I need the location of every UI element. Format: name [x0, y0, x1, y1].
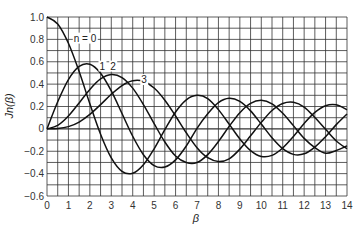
curve-annotations: n = 0123 [73, 33, 149, 85]
y-tick: 0.8 [30, 34, 44, 45]
curve-label: 3 [141, 74, 147, 85]
x-tick: 13 [320, 200, 332, 211]
x-tick-labels: 01234567891011121314 [44, 200, 353, 211]
y-tick-labels: 1.00.80.60.40.20−0.2−0.4−0.6 [24, 12, 44, 202]
x-tick: 3 [109, 200, 115, 211]
x-tick: 8 [216, 200, 222, 211]
x-tick: 9 [237, 200, 243, 211]
x-tick: 5 [151, 200, 157, 211]
x-tick: 4 [130, 200, 136, 211]
x-tick: 11 [278, 200, 289, 211]
x-tick: 12 [299, 200, 311, 211]
curve-label: 1 [100, 61, 106, 72]
x-tick: 1 [66, 200, 72, 211]
x-tick: 10 [256, 200, 268, 211]
x-tick: 7 [194, 200, 200, 211]
y-axis-label: Jn(β) [3, 93, 15, 120]
y-tick: 0.2 [30, 101, 44, 112]
y-tick: 1.0 [30, 12, 44, 23]
x-tick: 6 [173, 200, 179, 211]
x-tick: 14 [341, 200, 353, 211]
bessel-chart: 01234567891011121314 1.00.80.60.40.20−0.… [0, 0, 362, 233]
curve-label: n = 0 [74, 33, 97, 44]
x-tick: 2 [87, 200, 93, 211]
curve-label: 2 [110, 61, 116, 72]
x-axis-label: β [192, 212, 200, 224]
y-tick: 0 [38, 123, 44, 134]
y-tick: −0.4 [24, 168, 44, 179]
y-tick: −0.2 [24, 146, 44, 157]
x-tick: 0 [44, 200, 50, 211]
y-tick: 0.6 [30, 56, 44, 67]
y-tick: 0.4 [30, 79, 44, 90]
y-tick: −0.6 [24, 191, 44, 202]
